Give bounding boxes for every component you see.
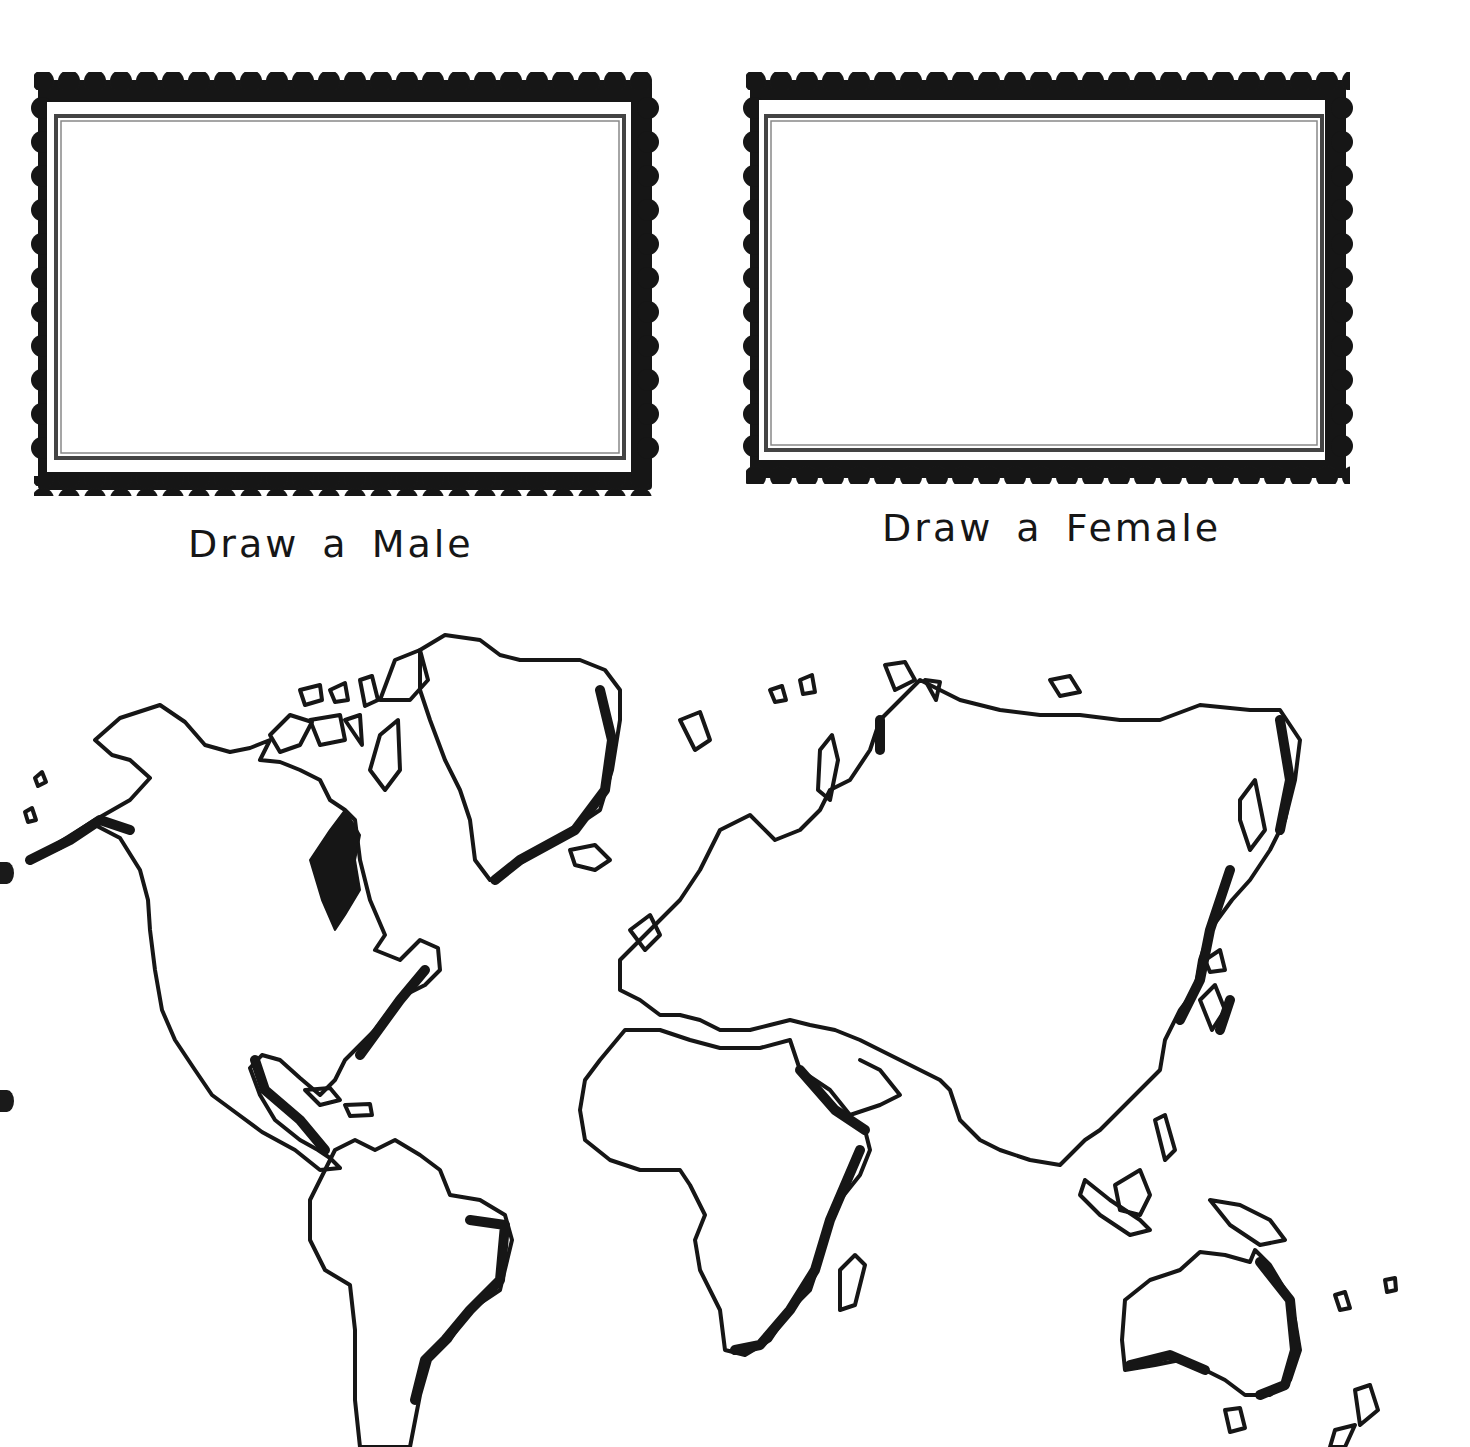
female-drawing-frame	[742, 68, 1354, 488]
male-drawing-area[interactable]	[64, 124, 616, 450]
male-drawing-frame	[30, 68, 660, 500]
madagascar-outline	[840, 1255, 865, 1310]
greenland-outline	[420, 635, 620, 880]
africa-outline	[580, 1030, 870, 1355]
female-caption: Draw a Female	[882, 506, 1221, 550]
female-drawing-area[interactable]	[774, 124, 1314, 442]
hudson-bay	[310, 810, 360, 930]
north-america-outline	[28, 705, 440, 1170]
europe-outline	[620, 680, 1300, 1165]
world-map	[0, 620, 1470, 1447]
male-caption: Draw a Male	[188, 522, 474, 566]
